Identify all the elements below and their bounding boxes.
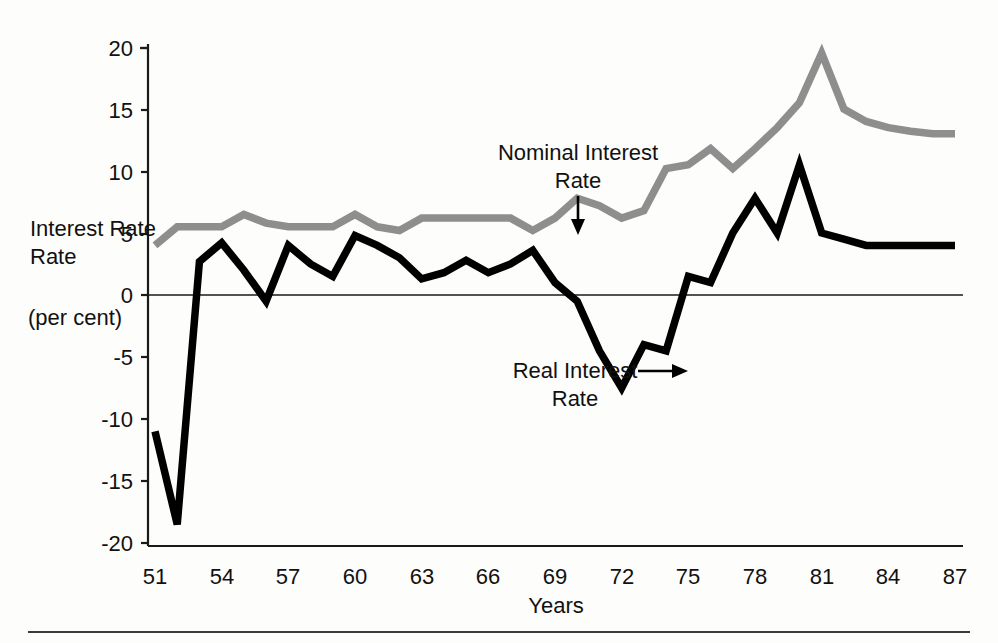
- y-tick-label-10: 10: [109, 160, 133, 185]
- y-axis-ticks: [140, 48, 148, 543]
- y-axis-label-line1: Interest Rate: [30, 216, 156, 241]
- x-tick-label-78: 78: [743, 564, 767, 589]
- x-tick-label-66: 66: [476, 564, 500, 589]
- x-tick-label-54: 54: [210, 564, 234, 589]
- y-tick-label-15: 15: [109, 98, 133, 123]
- x-tick-label-84: 84: [876, 564, 900, 589]
- y-tick-label-neg10: -10: [101, 407, 133, 432]
- x-tick-label-69: 69: [543, 564, 567, 589]
- real-annotation: Real Interest Rate: [513, 358, 688, 411]
- nominal-annotation-line2: Rate: [555, 168, 601, 193]
- right-arrow-icon: [638, 364, 688, 378]
- interest-rate-line-chart: 20 15 10 5 0 -5 -10 -15 -20 Interest Rat…: [0, 0, 998, 643]
- y-axis-label-line2: Rate: [30, 244, 76, 269]
- x-tick-label-87: 87: [943, 564, 967, 589]
- y-axis-units-label: (per cent): [28, 305, 122, 330]
- x-tick-label-60: 60: [343, 564, 367, 589]
- y-tick-label-neg20: -20: [101, 531, 133, 556]
- y-tick-label-neg15: -15: [101, 469, 133, 494]
- y-tick-label-neg5: -5: [113, 345, 133, 370]
- x-axis-label: Years: [528, 593, 583, 618]
- x-tick-label-72: 72: [610, 564, 634, 589]
- chart-page: 20 15 10 5 0 -5 -10 -15 -20 Interest Rat…: [0, 0, 998, 643]
- x-tick-label-51: 51: [143, 564, 167, 589]
- x-tick-label-57: 57: [276, 564, 300, 589]
- x-tick-label-75: 75: [676, 564, 700, 589]
- y-tick-label-0: 0: [121, 283, 133, 308]
- x-tick-label-81: 81: [810, 564, 834, 589]
- x-tick-label-63: 63: [410, 564, 434, 589]
- nominal-annotation-line1: Nominal Interest: [498, 140, 658, 165]
- real-annotation-line1: Real Interest: [513, 358, 638, 383]
- real-annotation-line2: Rate: [552, 386, 598, 411]
- y-tick-label-20: 20: [109, 36, 133, 61]
